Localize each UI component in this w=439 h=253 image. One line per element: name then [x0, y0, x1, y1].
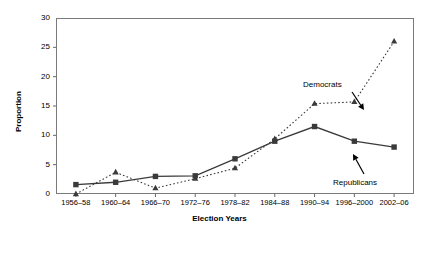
data-point-marker — [73, 182, 78, 187]
chart-canvas — [0, 0, 439, 253]
data-point-marker — [232, 165, 238, 171]
data-point-marker — [152, 185, 158, 191]
data-point-marker — [272, 135, 278, 141]
chart-figure: Proportion Election Years 051015202530 1… — [0, 0, 439, 253]
data-point-marker — [312, 124, 317, 129]
data-point-marker — [153, 174, 158, 179]
series-line-democrats — [76, 41, 394, 194]
data-point-marker — [352, 139, 357, 144]
data-point-marker — [113, 180, 118, 185]
data-point-marker — [311, 100, 317, 106]
annotation-arrow-line — [356, 159, 364, 174]
data-point-marker — [391, 144, 396, 149]
data-point-marker — [391, 38, 397, 44]
data-point-marker — [232, 156, 237, 161]
data-point-marker — [73, 191, 79, 197]
data-point-marker — [113, 169, 119, 175]
annotation-arrow-head — [358, 103, 364, 110]
